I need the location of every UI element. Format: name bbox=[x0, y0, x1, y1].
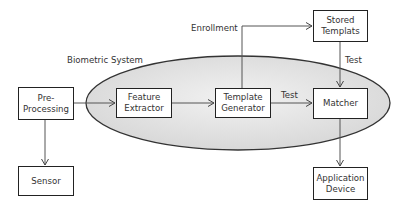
biometric-system-diagram: Pre- Processing Feature Extractor Templa… bbox=[0, 0, 408, 220]
node-feature-extractor: Feature Extractor bbox=[116, 88, 172, 118]
node-template-generator: Template Generator bbox=[215, 88, 271, 118]
node-stored-templates: Stored Templats bbox=[313, 10, 368, 42]
node-preprocessing: Pre- Processing bbox=[18, 87, 74, 120]
edge-label-test-template: Test bbox=[281, 90, 298, 100]
edge-label-enrollment: Enrollment bbox=[191, 23, 238, 33]
node-matcher: Matcher bbox=[313, 88, 368, 119]
node-application-device: Application Device bbox=[313, 167, 368, 200]
node-sensor: Sensor bbox=[18, 166, 74, 196]
container-label: Biometric System bbox=[67, 55, 143, 65]
edge-label-test-stored: Test bbox=[345, 55, 362, 65]
